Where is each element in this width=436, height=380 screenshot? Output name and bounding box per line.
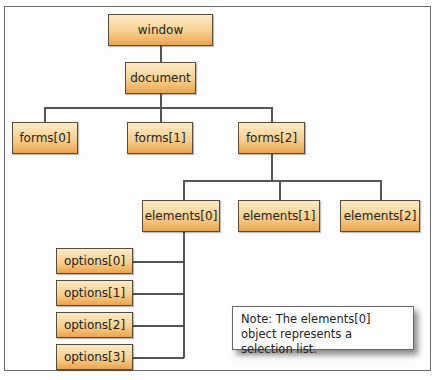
connector-options3 xyxy=(133,357,184,359)
node-forms-0: forms[0] xyxy=(12,122,78,154)
connector-forms1 xyxy=(160,107,162,122)
connector-elements0 xyxy=(183,180,185,200)
node-options-2: options[2] xyxy=(56,312,133,338)
connector-elements1 xyxy=(279,180,281,200)
node-options-0: options[0] xyxy=(56,248,133,274)
node-options-3: options[3] xyxy=(56,344,133,370)
node-window: window xyxy=(108,14,213,46)
node-elements-2: elements[2] xyxy=(340,200,420,232)
node-forms-1: forms[1] xyxy=(127,122,193,154)
connector-options1 xyxy=(133,293,184,295)
node-elements-0: elements[0] xyxy=(142,200,220,232)
connector-forms2-down xyxy=(271,154,273,181)
connector-options0 xyxy=(133,261,184,263)
connector-options2 xyxy=(133,325,184,327)
node-elements-1: elements[1] xyxy=(238,200,320,232)
connector-forms2 xyxy=(271,107,273,122)
connector-window-document xyxy=(160,45,162,62)
connector-elements-bar xyxy=(183,180,381,182)
node-document: document xyxy=(125,62,196,94)
connector-elements2 xyxy=(380,180,382,200)
connector-forms0 xyxy=(44,107,46,122)
connector-forms-bar xyxy=(44,107,272,109)
node-forms-2: forms[2] xyxy=(238,122,305,154)
node-options-1: options[1] xyxy=(56,280,133,306)
connector-elements0-down xyxy=(183,232,185,358)
connector-document-down xyxy=(160,93,162,108)
note-box: Note: The elements[0] object represents … xyxy=(232,306,414,350)
